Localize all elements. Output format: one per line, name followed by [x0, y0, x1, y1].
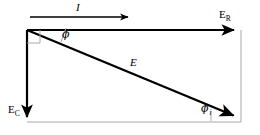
label-ec-subscript: C	[15, 109, 20, 118]
label-angle-phi-bottom: ϕi	[201, 103, 212, 117]
label-angle-phi-bottom-subscript: i	[209, 109, 212, 117]
label-ec-main: E	[8, 103, 15, 115]
label-e: E	[130, 57, 137, 68]
label-ec: EC	[8, 104, 20, 118]
phasor-diagram: I ER EC E ϕ ϕi	[0, 0, 260, 135]
label-current: I	[76, 2, 80, 13]
label-angle-phi-bottom-main: ϕ	[201, 102, 209, 115]
label-er: ER	[219, 9, 231, 23]
label-angle-phi-top: ϕ	[62, 29, 70, 40]
label-er-main: E	[219, 8, 226, 20]
label-er-subscript: R	[226, 14, 231, 23]
